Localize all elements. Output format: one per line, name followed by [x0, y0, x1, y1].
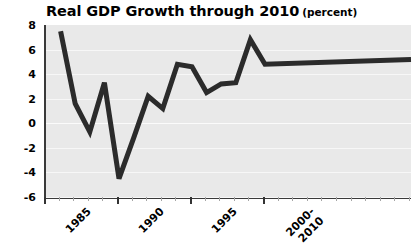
chart-subtitle: (percent) [302, 6, 357, 18]
data-series-line [46, 25, 411, 197]
y-tick-label: 0 [0, 117, 40, 130]
chart-title-block: Real GDP Growth through 2010(percent) [46, 2, 357, 20]
y-tick-label: -2 [0, 141, 40, 154]
y-tick-label: -4 [0, 166, 40, 179]
x-tick-label: 2000-2010 [283, 205, 326, 248]
x-tick-label: 1985 [63, 205, 94, 236]
page-title: Real GDP Growth through 2010 [46, 3, 299, 19]
x-axis: 1985199019952000-2010 [0, 197, 419, 251]
y-axis: 86420-2-4-6 [0, 25, 40, 197]
x-tick-label: 1990 [136, 205, 167, 236]
x-tick-label-line1: 1995 [209, 205, 240, 236]
x-tick-label: 1995 [209, 205, 240, 236]
y-tick-label: 4 [0, 68, 40, 81]
x-tick-label-line1: 1990 [136, 205, 167, 236]
plot-area [44, 25, 411, 199]
y-tick-label: 6 [0, 43, 40, 56]
x-tick-label-line1: 1985 [63, 205, 94, 236]
y-tick-label: 2 [0, 92, 40, 105]
chart-page: Real GDP Growth through 2010(percent) 86… [0, 0, 419, 251]
y-tick-label: 8 [0, 19, 40, 32]
